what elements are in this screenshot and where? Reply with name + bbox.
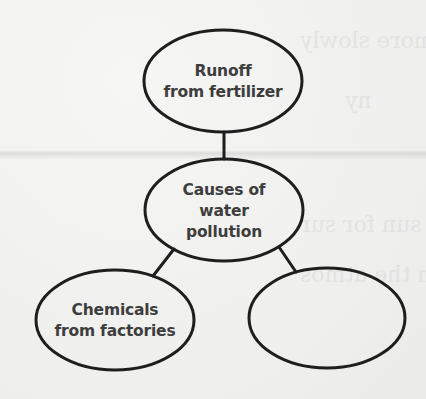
node-bottom-right-empty[interactable] <box>249 268 405 368</box>
connector-center-to-bottom-right <box>279 247 296 272</box>
node-label-center: Causes ofwaterpollution <box>183 180 266 243</box>
node-label-line: from factories <box>55 321 176 342</box>
node-label-line: pollution <box>183 222 266 243</box>
node-label-line: water <box>183 201 266 222</box>
node-label-bottom-left: Chemicalsfrom factories <box>55 300 176 342</box>
connector-center-to-bottom-left <box>153 249 174 276</box>
node-label-top: Runofffrom fertilizer <box>163 61 282 103</box>
node-label-line: Causes of <box>183 180 266 201</box>
node-label-line: Chemicals <box>55 300 176 321</box>
node-label-line: from fertilizer <box>163 82 282 103</box>
node-label-line: Runoff <box>163 61 282 82</box>
